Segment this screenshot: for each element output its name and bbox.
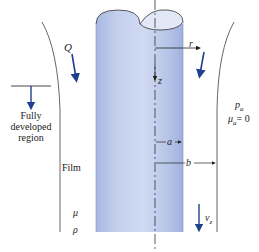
- z-label: z: [158, 75, 162, 86]
- r-label: r: [189, 38, 193, 49]
- viscosity-label: μ: [73, 207, 78, 218]
- velocity-label: vz: [205, 212, 212, 228]
- film-flow-arrow: [200, 52, 204, 74]
- flow-arrow: [72, 54, 76, 78]
- film-label: Film: [62, 162, 81, 173]
- rod-cylinder: [96, 10, 183, 232]
- density-label: ρ: [73, 224, 78, 235]
- outer-radius-label: b: [186, 157, 191, 168]
- falling-film-diagram: Q r z Fully developed region Film μ ρ a …: [0, 0, 259, 252]
- inner-radius-label: a: [167, 136, 172, 147]
- fully-developed-label: Fully developed region: [6, 110, 56, 143]
- flow-rate-label: Q: [64, 42, 72, 53]
- ambient-viscosity-label: μa= 0: [228, 113, 250, 129]
